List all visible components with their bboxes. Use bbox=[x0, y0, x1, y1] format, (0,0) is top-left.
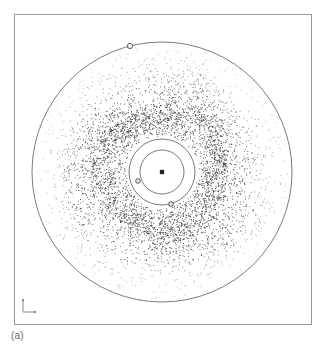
inner-orbit-body bbox=[136, 179, 141, 184]
outer-boundary-body bbox=[127, 43, 132, 48]
body-markers bbox=[127, 43, 173, 206]
outer-orbit-body bbox=[169, 202, 174, 207]
central-body bbox=[160, 170, 163, 173]
orientation-axes-arm bbox=[23, 300, 35, 312]
plot-frame bbox=[15, 15, 312, 325]
panel-caption: (a) bbox=[11, 330, 24, 342]
scatter-plot-canvas bbox=[0, 0, 327, 347]
figure-panel: (a) bbox=[0, 0, 327, 347]
axis-tick-vertical bbox=[22, 299, 24, 301]
orientation-axes-icon bbox=[22, 299, 36, 313]
axis-tick-horizontal bbox=[34, 311, 36, 313]
particle-cloud bbox=[33, 48, 293, 300]
